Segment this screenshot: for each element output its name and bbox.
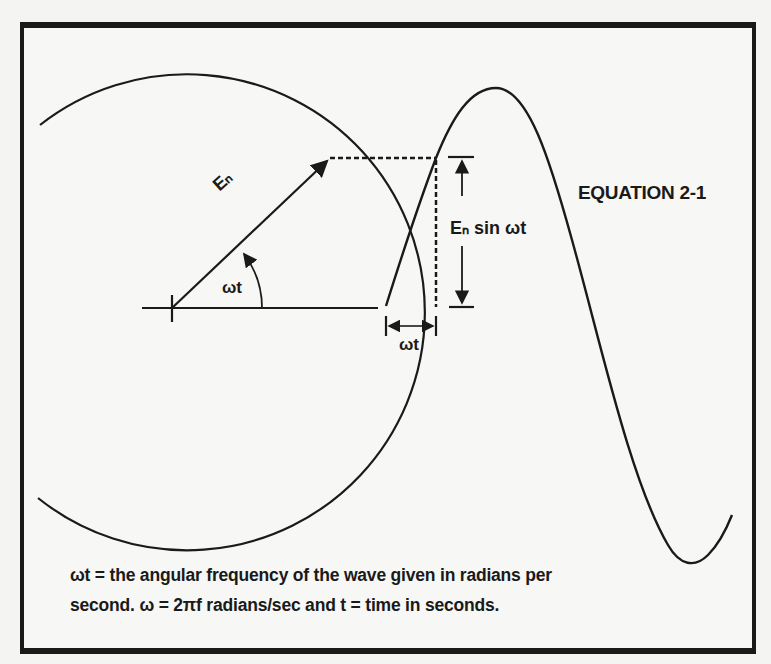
- angle-arc: [244, 254, 262, 308]
- amplitude-label: Eₙ sin ωt: [448, 217, 528, 239]
- angle-label: ωt: [222, 278, 242, 298]
- sine-wave: [386, 88, 732, 563]
- caption-line-2: second. ω = 2πf radians/sec and t = time…: [70, 590, 710, 620]
- equation-label: EQUATION 2-1: [578, 182, 706, 204]
- phasor-arrow: [172, 161, 327, 308]
- figure-caption: ωt = the angular frequency of the wave g…: [70, 560, 710, 620]
- rotating-phasor-circle: [38, 74, 425, 550]
- horizontal-wt-label: ωt: [399, 335, 419, 355]
- caption-line-1: ωt = the angular frequency of the wave g…: [70, 560, 710, 590]
